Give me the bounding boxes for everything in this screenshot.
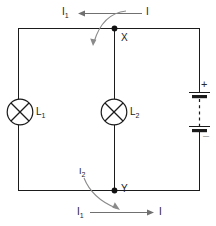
label-lamp-l1: L1: [36, 107, 45, 119]
circuit-schematic-svg: [0, 0, 216, 226]
label-node-y: Y: [121, 184, 128, 194]
bottom-current-arrow: [90, 210, 154, 216]
label-battery-negative: –: [203, 130, 209, 141]
battery-cell-1-short-plate: [192, 95, 207, 98]
label-top-right-current: I: [146, 7, 149, 17]
label-lamp-l2: L2: [130, 107, 139, 119]
top-current-arrow: [78, 11, 142, 17]
circuit-diagram-figure: I1 I X Y L1 L2 + – I2 I1 I: [0, 0, 216, 226]
lamp-l1-symbol: [7, 99, 33, 125]
label-branch-current: I2: [79, 167, 85, 178]
junction-node-y: [112, 188, 118, 194]
label-top-left-current: I1: [62, 7, 69, 19]
junction-node-x: [112, 26, 118, 32]
label-bottom-right-current: I: [159, 207, 162, 217]
label-node-x: X: [121, 33, 128, 43]
label-bottom-left-current: I1: [77, 207, 84, 219]
label-battery-positive: +: [201, 79, 207, 90]
battery-symbol: [189, 93, 210, 133]
lamp-l2-symbol: [101, 99, 127, 125]
